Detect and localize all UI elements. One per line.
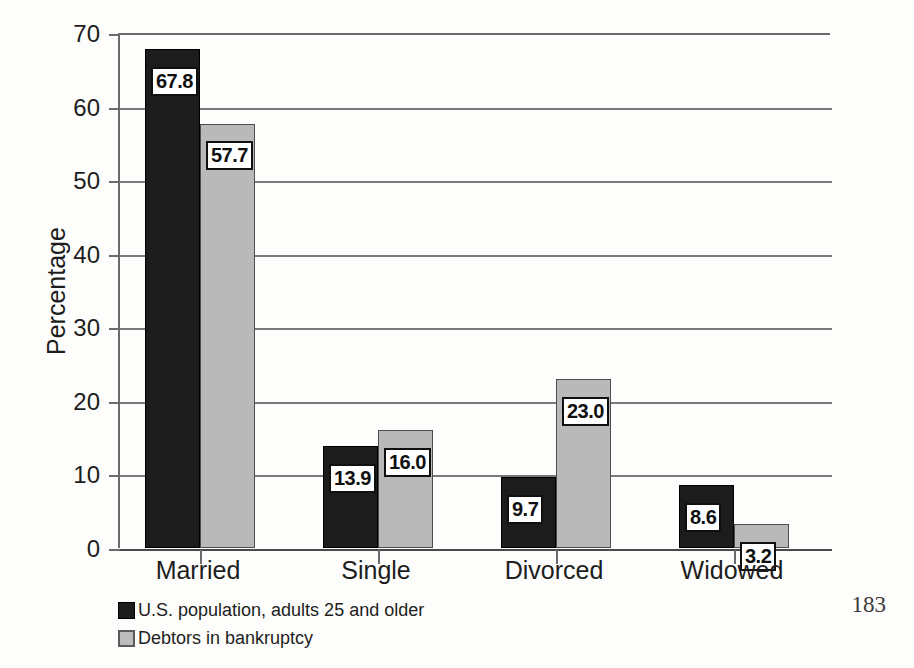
page-number: 183 (852, 592, 887, 618)
legend-item: U.S. population, adults 25 and older (118, 597, 424, 623)
bar-value-label: 57.7 (206, 141, 253, 170)
gridline (120, 108, 832, 110)
x-axis-category-label-widowed: Widowed (681, 556, 784, 585)
y-axis-tick-mark (109, 34, 120, 36)
legend-label: Debtors in bankruptcy (138, 628, 313, 649)
y-axis-tick-mark (109, 402, 120, 404)
bar-single-series1 (323, 446, 378, 548)
bar-married-series1 (145, 49, 200, 548)
plot-area: 67.857.713.916.09.723.08.63.2 (118, 33, 830, 548)
legend-swatch-icon (118, 602, 135, 619)
chart-page: Percentage 010203040506070 67.857.713.91… (0, 0, 914, 668)
y-axis-tick-label: 30 (38, 314, 100, 342)
y-axis-tick-label: 40 (38, 241, 100, 269)
y-axis-tick-label: 70 (38, 20, 100, 48)
y-axis-tick-mark (109, 549, 120, 551)
y-axis-tick-label: 20 (38, 388, 100, 416)
legend-item: Debtors in bankruptcy (118, 625, 424, 651)
y-axis-tick-label: 50 (38, 167, 100, 195)
bar-value-label: 13.9 (329, 464, 376, 493)
y-axis-tick-label: 0 (38, 535, 100, 563)
x-axis-category-label-single: Single (341, 556, 411, 585)
x-axis-category-label-divorced: Divorced (505, 556, 604, 585)
y-axis-tick-mark (109, 181, 120, 183)
bar-value-label: 23.0 (562, 397, 609, 426)
y-axis-tick-label: 60 (38, 94, 100, 122)
gridline (120, 549, 832, 551)
y-axis-tick-mark (109, 108, 120, 110)
chart-legend: U.S. population, adults 25 and olderDebt… (118, 597, 424, 653)
y-axis-label-container: Percentage (52, 175, 82, 395)
bar-married-series2 (200, 124, 255, 549)
bar-value-label: 16.0 (384, 448, 431, 477)
bar-value-label: 9.7 (507, 495, 543, 524)
legend-swatch-icon (118, 630, 135, 647)
bar-value-label: 8.6 (685, 503, 721, 532)
y-axis-tick-mark (109, 475, 120, 477)
bar-value-label: 67.8 (151, 67, 198, 96)
x-axis-category-label-married: Married (156, 556, 241, 585)
y-axis-tick-label: 10 (38, 461, 100, 489)
y-axis-tick-mark (109, 255, 120, 257)
y-axis-tick-mark (109, 328, 120, 330)
legend-label: U.S. population, adults 25 and older (138, 600, 424, 621)
